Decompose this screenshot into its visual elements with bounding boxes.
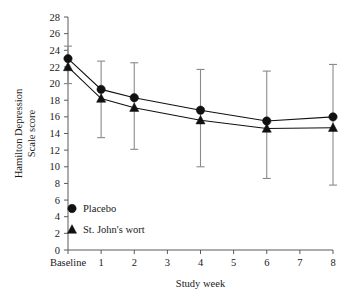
y-tick-label: 0 [55, 245, 60, 256]
legend-label: Placebo [83, 203, 116, 214]
legend-marker-circle [68, 204, 76, 212]
y-tick-label: 4 [55, 211, 61, 222]
data-point-circle [196, 106, 204, 114]
legend-label: St. John's wort [83, 224, 145, 235]
data-point-triangle [63, 62, 72, 71]
y-tick-label: 22 [50, 62, 61, 73]
y-tick-label: 10 [50, 161, 61, 172]
y-tick-label: 12 [50, 145, 61, 156]
data-point-circle [64, 54, 72, 62]
caption-sliver [0, 285, 343, 298]
y-tick-label: 18 [50, 95, 61, 106]
y-tick-label: 14 [50, 128, 61, 139]
y-tick-label: 20 [50, 78, 61, 89]
x-tick-label: 4 [198, 257, 204, 268]
chart-legend: PlaceboSt. John's wort [67, 203, 144, 235]
y-axis-title-line-2: Scale score [26, 109, 37, 157]
x-tick-label: 2 [132, 257, 137, 268]
data-point-circle [329, 113, 337, 121]
x-tick-label: Baseline [50, 257, 86, 268]
y-axis: 0246810121416182022242628 [50, 12, 69, 256]
figure-container: 0246810121416182022242628 Baseline123456… [0, 0, 343, 298]
x-tick-label: 1 [99, 257, 104, 268]
legend-marker-triangle [67, 225, 76, 234]
data-point-circle [97, 85, 105, 93]
y-tick-label: 24 [50, 45, 61, 56]
y-axis-title-line-1: Hamilton Depression [13, 88, 24, 178]
y-tick-label: 28 [50, 12, 61, 23]
x-tick-label: 3 [165, 257, 170, 268]
x-axis: Baseline12345678 [50, 250, 336, 268]
line-chart: 0246810121416182022242628 Baseline123456… [0, 0, 343, 298]
y-tick-label: 16 [50, 111, 61, 122]
y-tick-label: 2 [55, 228, 60, 239]
data-point-triangle [328, 123, 337, 132]
y-tick-label: 6 [55, 195, 60, 206]
axis-titles: Study weekHamilton DepressionScale score [13, 88, 226, 289]
x-tick-label: 5 [231, 257, 236, 268]
y-tick-label: 26 [50, 28, 61, 39]
y-tick-label: 8 [55, 178, 60, 189]
x-tick-label: 7 [297, 257, 302, 268]
x-tick-label: 6 [264, 257, 269, 268]
data-point-circle [130, 94, 138, 102]
x-tick-label: 8 [330, 257, 335, 268]
